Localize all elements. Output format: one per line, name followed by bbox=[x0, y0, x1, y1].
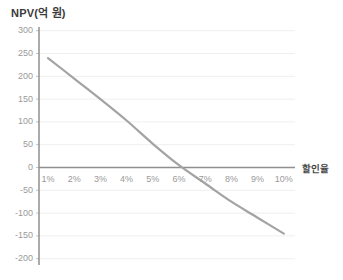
y-tick-label: -200 bbox=[7, 254, 33, 263]
x-tick-label: 10% bbox=[271, 175, 297, 184]
x-tick-label: 2% bbox=[61, 175, 87, 184]
x-tick-label: 5% bbox=[140, 175, 166, 184]
x-tick-label: 4% bbox=[114, 175, 140, 184]
y-tick-label: -100 bbox=[7, 209, 33, 218]
x-tick-label: 3% bbox=[87, 175, 113, 184]
y-tick-label: 300 bbox=[7, 26, 33, 35]
x-tick-label: 8% bbox=[218, 175, 244, 184]
chart-plot-area bbox=[0, 0, 343, 280]
y-tick-label: -150 bbox=[7, 231, 33, 240]
x-tick-label: 6% bbox=[166, 175, 192, 184]
x-tick-label: 1% bbox=[35, 175, 61, 184]
y-tick-label: 0 bbox=[7, 163, 33, 172]
y-tick-label: 100 bbox=[7, 117, 33, 126]
x-axis-title: 할인율 bbox=[302, 161, 329, 175]
y-tick-label: -50 bbox=[7, 186, 33, 195]
x-tick-label: 9% bbox=[245, 175, 271, 184]
y-tick-label: 250 bbox=[7, 49, 33, 58]
y-tick-label: 200 bbox=[7, 72, 33, 81]
x-tick-label: 7% bbox=[192, 175, 218, 184]
y-tick-label: 150 bbox=[7, 95, 33, 104]
y-tick-label: 50 bbox=[7, 140, 33, 149]
npv-curve bbox=[48, 58, 284, 234]
npv-discount-rate-chart: NPV(억 원) 300250200150100500-50-100-150-2… bbox=[0, 0, 343, 280]
